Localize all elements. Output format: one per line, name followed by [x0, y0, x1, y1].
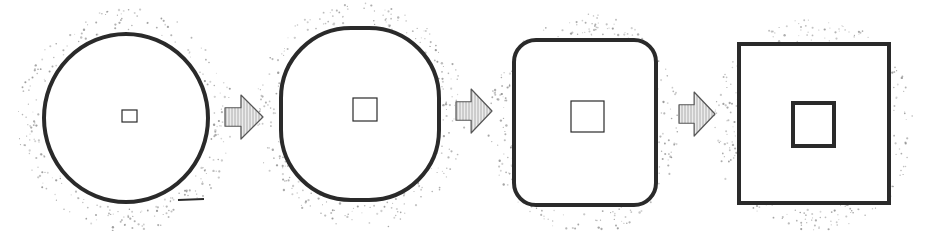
- outer-shape: [514, 40, 656, 205]
- outer-circle: [44, 34, 208, 202]
- arrow-right-icon: [456, 89, 492, 133]
- stage-3-rounded-square: [514, 40, 656, 205]
- stage-2-rounded-circle: [281, 28, 439, 200]
- circle-to-square-diagram: [0, 0, 934, 231]
- outer-shape: [739, 44, 889, 203]
- arrow-right-icon: [679, 92, 715, 136]
- outer-shape: [281, 28, 439, 200]
- arrow-right-icon: [225, 95, 263, 139]
- pencil-mark: [178, 199, 204, 200]
- stage-4-square: [739, 44, 889, 203]
- stage-1-circle: [44, 34, 208, 202]
